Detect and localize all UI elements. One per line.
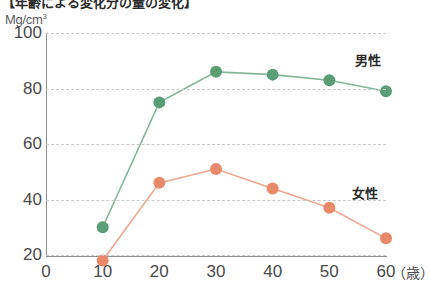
- x-axis-tick: 0: [41, 262, 50, 282]
- x-axis-tick: 30: [207, 262, 226, 282]
- data-point: [267, 69, 279, 81]
- chart-title-cropped: 【年齢による変化分の量の変化】: [0, 0, 430, 11]
- x-axis-unit-label: （歳）: [392, 262, 430, 282]
- x-axis-tick: 50: [320, 262, 339, 282]
- y-axis-tick: 60: [2, 134, 42, 154]
- series-line-female: [103, 169, 386, 261]
- y-axis-tick: 80: [2, 79, 42, 99]
- data-point: [153, 96, 165, 108]
- y-axis-tick: 40: [2, 190, 42, 210]
- gridline: [46, 89, 386, 90]
- data-point: [380, 232, 392, 244]
- x-axis-tick: 20: [150, 262, 169, 282]
- page-title: 【年齢による変化分の量の変化】: [2, 0, 430, 9]
- x-axis-line: [46, 256, 387, 257]
- data-point: [153, 177, 165, 189]
- data-point: [323, 74, 335, 86]
- y-axis-unit-exponent: 3: [43, 12, 47, 21]
- series-label-male: 男性: [355, 50, 381, 69]
- data-point: [323, 202, 335, 214]
- y-axis-tick-labels: 20406080100: [0, 33, 42, 255]
- data-point: [97, 221, 109, 233]
- y-axis-tick: 100: [2, 23, 42, 43]
- data-point: [380, 85, 392, 97]
- y-axis-tick: 20: [2, 245, 42, 265]
- x-axis-tick: 60: [377, 262, 396, 282]
- data-point: [210, 66, 222, 78]
- x-axis-tick: 40: [263, 262, 282, 282]
- gridline: [46, 255, 386, 256]
- x-axis-tick: 10: [93, 262, 112, 282]
- plot-area: [46, 33, 386, 255]
- data-point: [267, 182, 279, 194]
- series-label-female: 女性: [352, 183, 378, 202]
- chart-container: 【年齢による変化分の量の変化】 Mg/cm3 20406080100 男性 女性…: [0, 0, 430, 295]
- gridline: [46, 33, 386, 34]
- series-line-male: [103, 72, 386, 227]
- gridline: [46, 144, 386, 145]
- data-point: [210, 163, 222, 175]
- gridline: [46, 200, 386, 201]
